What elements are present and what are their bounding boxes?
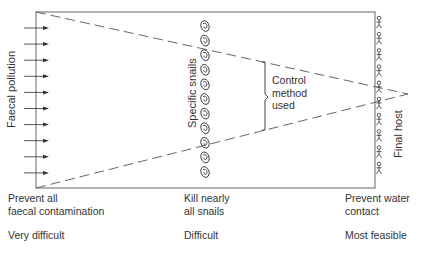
human-figure-icon: [377, 162, 382, 174]
snail-icon: [199, 136, 210, 149]
snail-icon: [199, 34, 210, 47]
column-3-action: Prevent water contact: [345, 192, 410, 218]
human-figure-icon: [377, 97, 382, 109]
final-host-label: Final host: [392, 110, 404, 158]
snail-icon: [199, 122, 210, 135]
snail-column: [199, 19, 210, 178]
human-figure-icon: [377, 49, 382, 61]
human-figure-icon: [377, 113, 382, 125]
snail-icon: [199, 63, 210, 76]
human-figure-icon: [377, 16, 382, 28]
snail-icon: [199, 78, 210, 91]
human-figure-icon: [377, 65, 382, 77]
column-2-action: Kill nearly all snails: [184, 192, 230, 218]
human-figure-icon: [377, 130, 382, 142]
snail-icon: [199, 49, 210, 62]
column-2-difficulty: Difficult: [184, 229, 218, 242]
column-1-difficulty: Very difficult: [8, 229, 64, 242]
faecal-pollution-label: Faecal pollution: [5, 51, 17, 128]
human-column: [377, 16, 382, 174]
snail-icon: [199, 19, 210, 32]
snail-icon: [199, 165, 210, 178]
human-figure-icon: [377, 32, 382, 44]
column-3-difficulty: Most feasible: [345, 229, 407, 242]
snail-icon: [199, 151, 210, 164]
column-1-action: Prevent all faecal contamination: [8, 192, 104, 218]
snail-icon: [199, 92, 210, 105]
lower-dashed-line: [36, 94, 408, 188]
human-figure-icon: [377, 81, 382, 93]
human-figure-icon: [377, 146, 382, 158]
specific-snails-label: Specific snails: [186, 58, 198, 128]
snail-icon: [199, 107, 210, 120]
control-method-label: Control method used: [272, 74, 307, 112]
control-bracket: [262, 62, 268, 130]
upper-dashed-line: [36, 12, 408, 94]
